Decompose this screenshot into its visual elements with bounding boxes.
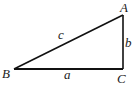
- vertex-label-a: A: [119, 0, 128, 15]
- right-triangle-diagram: A B C a b c: [0, 0, 132, 85]
- side-label-b: b: [125, 35, 132, 50]
- side-c: [14, 15, 123, 69]
- vertex-label-c: C: [117, 71, 126, 85]
- side-label-a: a: [64, 67, 71, 82]
- side-label-c: c: [58, 27, 64, 42]
- vertex-label-b: B: [2, 66, 10, 81]
